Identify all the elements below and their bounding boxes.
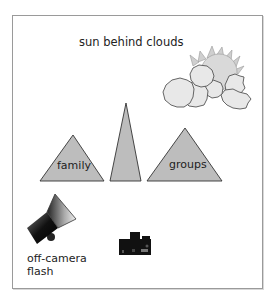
triangle-groups xyxy=(147,128,222,181)
label-flash-line2: flash xyxy=(27,265,87,278)
label-off-camera-flash: off-camera flash xyxy=(27,252,87,278)
camera-icon xyxy=(119,232,151,255)
label-flash-line1: off-camera xyxy=(27,252,87,265)
diagram-title: sun behind clouds xyxy=(79,36,183,48)
triangle-family xyxy=(40,135,104,181)
label-groups: groups xyxy=(169,159,207,171)
triangle-middle xyxy=(110,103,141,181)
flash-icon xyxy=(27,194,76,244)
label-family: family xyxy=(57,160,91,172)
